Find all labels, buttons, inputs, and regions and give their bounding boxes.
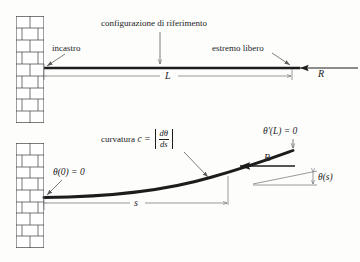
figure-root: configurazione di riferimento incastro e… xyxy=(0,0,360,262)
fraction-denominator: ds xyxy=(159,139,170,150)
angle-label-theta-s: θ(s) xyxy=(318,173,333,183)
fraction-numerator: dθ xyxy=(158,129,169,139)
clamped-slope-label: θ(0) = 0 xyxy=(53,168,85,178)
free-end-slope-label: θ′(L) = 0 xyxy=(263,127,297,137)
equals-sign: = xyxy=(145,134,150,144)
free-end-label: estremo libero xyxy=(212,44,264,53)
force-label-R-top: R xyxy=(318,69,324,79)
diagram-canvas xyxy=(0,0,360,262)
force-label-R-bottom: R xyxy=(264,153,270,163)
abs-bar-left xyxy=(155,129,156,149)
angle-reference-lines xyxy=(253,171,317,185)
fixed-end-label: incastro xyxy=(52,44,81,53)
bottom-wall xyxy=(16,143,44,248)
fixed-end-leader xyxy=(47,54,65,66)
curvature-word: curvatura xyxy=(101,134,135,144)
length-label-L: L xyxy=(165,71,171,81)
abs-bar-right xyxy=(172,129,173,149)
top-wall xyxy=(16,16,44,123)
curvature-fraction: dθ ds xyxy=(158,129,169,149)
free-end-leader xyxy=(272,53,290,65)
curvature-formula: curvatura c = dθ ds xyxy=(101,129,175,149)
reference-configuration-label: configurazione di riferimento xyxy=(101,19,207,28)
curvature-symbol: c xyxy=(137,134,141,144)
clamped-slope-leader xyxy=(47,180,62,195)
curvature-leader xyxy=(184,152,208,177)
arc-length-label-s: s xyxy=(134,198,138,208)
